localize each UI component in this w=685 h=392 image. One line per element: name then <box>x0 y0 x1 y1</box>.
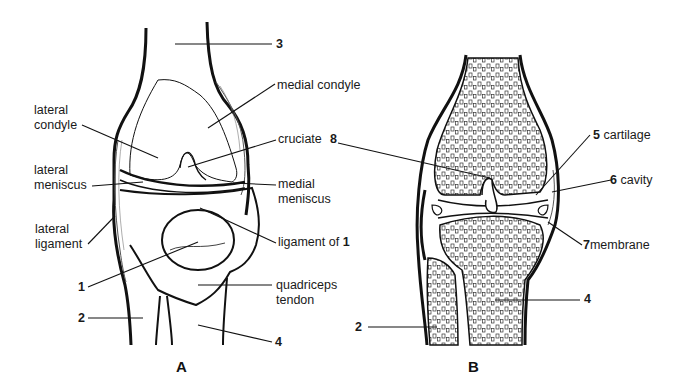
cavity-text: cavity <box>620 173 652 187</box>
label-a-2: 2 <box>78 311 85 326</box>
label-ligament-of: ligament of 1 <box>278 235 350 250</box>
label-medial-condyle: medial condyle <box>277 78 360 93</box>
figure-b-knee-section <box>417 55 558 345</box>
label-lateral-meniscus-line2: meniscus <box>34 178 87 193</box>
label-cruciate: cruciate <box>278 132 322 147</box>
label-a-3: 3 <box>276 37 283 52</box>
label-membrane: 7membrane <box>583 238 650 253</box>
label-cavity: 6 cavity <box>610 173 652 188</box>
label-lateral-condyle-line1: lateral <box>34 103 68 118</box>
label-lateral-condyle-line2: condyle <box>34 118 77 133</box>
label-quadriceps-line1: quadriceps <box>276 278 337 293</box>
label-b-5: 5 <box>593 128 600 142</box>
label-cartilage: 5 cartilage <box>593 128 651 143</box>
figure-a-caption: A <box>176 358 187 375</box>
label-lateral-ligament-line2: ligament <box>35 237 82 252</box>
ligament-of-number: 1 <box>343 235 350 249</box>
label-quadriceps-line2: tendon <box>276 293 314 308</box>
cartilage-text: cartilage <box>603 128 650 142</box>
label-b-4: 4 <box>584 292 591 307</box>
label-medial-meniscus-line2: meniscus <box>278 192 331 207</box>
label-b-2: 2 <box>355 320 362 335</box>
membrane-text: membrane <box>590 238 650 252</box>
label-a-4: 4 <box>275 335 282 350</box>
figure-b-caption: B <box>468 358 479 375</box>
label-b-6: 6 <box>610 173 617 187</box>
label-b-7: 7 <box>583 238 590 252</box>
label-lateral-meniscus-line1: lateral <box>34 163 68 178</box>
label-a-1: 1 <box>78 280 85 295</box>
label-8: 8 <box>330 132 337 147</box>
label-medial-meniscus-line1: medial <box>278 177 315 192</box>
knee-diagram-drawing <box>0 0 685 392</box>
label-lateral-ligament-line1: lateral <box>35 222 69 237</box>
ligament-of-text: ligament of <box>278 235 339 249</box>
